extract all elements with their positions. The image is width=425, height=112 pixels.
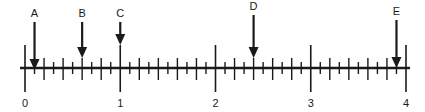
marker-c: C (115, 7, 125, 45)
axis-labels: 01234 (22, 97, 409, 109)
axis-label-0: 0 (22, 97, 28, 109)
axis-label-3: 3 (308, 97, 314, 109)
number-line-canvas: 01234 ABCDE (0, 0, 425, 112)
marker-b: B (77, 7, 87, 58)
marker-label: A (31, 7, 39, 19)
marker-label: C (116, 7, 124, 19)
axis-label-2: 2 (212, 97, 218, 109)
number-line-diagram: 01234 ABCDE (0, 0, 425, 112)
axis-label-1: 1 (117, 97, 123, 109)
marker-label: B (78, 7, 85, 19)
marker-label: D (250, 0, 258, 12)
arrow-down-icon (77, 47, 87, 58)
marker-e: E (391, 5, 401, 68)
arrow-down-icon (391, 57, 401, 68)
arrow-down-icon (249, 47, 259, 58)
marker-label: E (393, 5, 400, 17)
axis-label-4: 4 (403, 97, 409, 109)
marker-d: D (249, 0, 259, 58)
arrow-down-icon (115, 34, 125, 45)
marker-a: A (30, 7, 40, 70)
